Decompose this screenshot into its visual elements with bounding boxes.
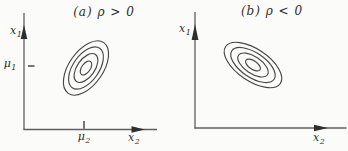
panel-a-x-axis-label: x2: [128, 132, 140, 146]
contour-ellipse: [225, 41, 281, 90]
contour-figure-drawing: [0, 0, 348, 151]
contour-ellipse: [54, 33, 117, 103]
contour-ellipse: [62, 41, 111, 95]
label-subscript: 2: [85, 136, 90, 145]
panel-a-y-axis-label: x1: [10, 25, 22, 39]
panel-a-title: (a) ρ > 0: [73, 6, 135, 18]
label-subscript: 1: [11, 63, 16, 72]
panel-b-title: (b) ρ < 0: [241, 5, 303, 17]
label-subscript: 1: [17, 30, 22, 39]
panel-b-y-axis-label: x1: [179, 23, 191, 37]
label-base: x: [10, 24, 17, 37]
label-base: x: [313, 131, 320, 144]
label-subscript: 1: [186, 28, 191, 37]
label-subscript: 2: [135, 137, 140, 146]
label-base: x: [179, 22, 186, 35]
label-base: x: [128, 131, 135, 144]
contour-ellipse: [234, 48, 272, 81]
contour-ellipse: [217, 33, 290, 96]
label-subscript: 2: [320, 137, 325, 146]
panel-a-x-tick-label: μ2: [78, 131, 91, 145]
panel-a-y-tick-label: μ1: [4, 58, 17, 72]
panel-b-x-axis-label: x2: [313, 132, 325, 146]
label-base: μ: [4, 57, 12, 70]
panel-a-axes: [21, 13, 157, 133]
label-base: μ: [78, 130, 86, 143]
panel-b-axes: [192, 12, 347, 131]
panel-b-contour-ellipses: [217, 33, 290, 96]
figure-canvas: (a) ρ > 0 x1 μ1 μ2 x2 (b) ρ < 0 x1 x2: [0, 0, 348, 151]
panel-a-contour-ellipses: [54, 33, 117, 103]
panel-b-y-axis-arrowhead-icon: [192, 24, 199, 40]
